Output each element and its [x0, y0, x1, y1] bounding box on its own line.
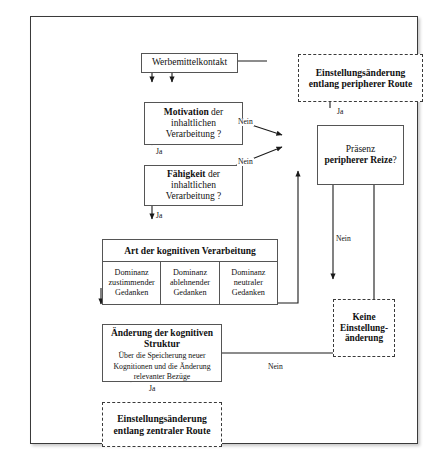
node-praesenz-line2-rest: ? [392, 155, 396, 165]
node-aenderung-line1: Änderung der kognitiven [111, 328, 213, 339]
node-zentrale-route-line1: Einstellungsänderung [117, 413, 207, 424]
node-keine-aenderung-line3: änderung [345, 333, 383, 344]
edge-label-faehigkeit-ja: Ja [155, 212, 163, 220]
art-table-cell-zustimmend[interactable]: Dominanz zustimmender Gedanken [103, 262, 160, 304]
node-einstellungsaenderung-zentraler-route[interactable]: Einstellungsänderung entlang zentraler R… [102, 402, 222, 447]
node-praesenz-line2: peripherer Reize? [324, 155, 396, 166]
art-cell-2-line3: Gedanken [173, 288, 206, 298]
node-werbemittelkontakt[interactable]: Werbemittelkontakt [141, 53, 238, 73]
art-cell-3-line3: Gedanken [232, 288, 265, 298]
art-cell-2-line2: ablehnender [170, 278, 210, 288]
node-keine-aenderung-line2: Einstellung- [340, 323, 388, 334]
art-table-cell-ablehnend[interactable]: Dominanz ablehnender Gedanken [160, 262, 218, 304]
edge-label-praesenz-nein: Nein [335, 235, 352, 243]
diagram-canvas: Werbemittelkontakt Motivation der inhalt… [0, 0, 446, 474]
node-zentrale-route-line2: entlang zentraler Route [114, 425, 211, 436]
node-aenderung-kognitive-struktur[interactable]: Änderung der kognitiven Struktur Über di… [102, 324, 222, 382]
node-motivation-line3: Verarbeitung ? [166, 129, 222, 140]
node-motivation-line1: Motivation der [164, 107, 223, 118]
edge-label-motivation-ja: Ja [155, 148, 163, 156]
art-cell-3-line1: Dominanz [231, 268, 265, 278]
node-faehigkeit[interactable]: Fähigkeit der inhaltlichen Verarbeitung … [144, 165, 243, 206]
art-cell-1-line2: zustimmender [108, 278, 154, 288]
art-table-body: Dominanz zustimmender Gedanken Dominanz … [103, 262, 277, 304]
node-einstellungsaenderung-peripherer-route[interactable]: Einstellungsänderung entlang peripherer … [298, 54, 423, 102]
node-keine-aenderung-line1: Keine [352, 312, 375, 323]
art-cell-1-line3: Gedanken [115, 288, 148, 298]
node-praesenz-keyword: peripherer Reize [324, 155, 392, 165]
art-table-header: Art der kognitiven Verarbeitung [103, 240, 277, 262]
edge-label-aenderung-nein: Nein [267, 363, 284, 371]
edge-label-praesenz-ja: Ja [336, 108, 344, 116]
edge-label-faehigkeit-nein: Nein [237, 158, 254, 166]
node-motivation[interactable]: Motivation der inhaltlichen Verarbeitung… [144, 102, 243, 145]
node-faehigkeit-line1: Fähigkeit der [167, 169, 220, 180]
art-cell-3-line2: neutraler [234, 278, 263, 288]
node-motivation-line1-rest: der [209, 107, 224, 117]
node-motivation-line2: inhaltlichen [171, 118, 216, 129]
diagram-frame: Werbemittelkontakt Motivation der inhalt… [30, 16, 418, 444]
node-periphere-route-line1: Einstellungsänderung [316, 67, 406, 78]
node-praesenz-line1: Präsenz [346, 144, 376, 155]
node-aenderung-sub1: Über die Speicherung neuer [118, 351, 205, 360]
node-faehigkeit-line1-rest: der [206, 169, 221, 179]
node-faehigkeit-keyword: Fähigkeit [167, 169, 206, 179]
node-aenderung-sub2: Kognitionen und die Änderung [113, 362, 210, 371]
node-keine-einstellungsaenderung[interactable]: Keine Einstellung- änderung [333, 299, 395, 357]
art-cell-1-line1: Dominanz [115, 268, 149, 278]
node-praesenz-peripherer-reize[interactable]: Präsenz peripherer Reize? [317, 125, 404, 185]
node-periphere-route-line2: entlang peripherer Route [309, 78, 413, 89]
node-aenderung-line2: Struktur [144, 339, 180, 350]
edge-label-motivation-nein: Nein [237, 118, 254, 126]
art-table-cell-neutral[interactable]: Dominanz neutraler Gedanken [219, 262, 277, 304]
art-cell-2-line1: Dominanz [173, 268, 207, 278]
edge-label-aenderung-ja: Ja [148, 385, 156, 393]
node-aenderung-sub3: relevanter Bezüge [134, 372, 191, 381]
node-werbemittelkontakt-label: Werbemittelkontakt [152, 57, 227, 68]
node-art-der-kognitiven-verarbeitung[interactable]: Art der kognitiven Verarbeitung Dominanz… [102, 239, 278, 305]
node-faehigkeit-line3: Verarbeitung ? [166, 191, 222, 202]
node-motivation-keyword: Motivation [164, 107, 209, 117]
node-faehigkeit-line2: inhaltlichen [171, 180, 216, 191]
